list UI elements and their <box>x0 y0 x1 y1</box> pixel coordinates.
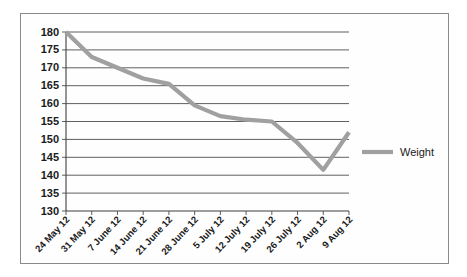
chart-legend: Weight <box>362 146 434 158</box>
weight-line-chart: 180 175 170 165 160 155 150 145 140 135 … <box>21 14 450 265</box>
y-tick-label: 170 <box>41 61 59 73</box>
y-tick-label: 135 <box>41 187 59 199</box>
x-tick-marks <box>66 211 349 215</box>
y-tick-label: 150 <box>41 133 59 145</box>
y-tick-label: 175 <box>41 43 59 55</box>
weight-series-line <box>66 32 349 170</box>
y-tick-label: 155 <box>41 115 59 127</box>
y-tick-label: 160 <box>41 97 59 109</box>
y-tick-label: 165 <box>41 79 59 91</box>
y-tick-label: 140 <box>41 169 59 181</box>
x-axis-labels: 24 May 1231 May 127 June 1214 June 1221 … <box>33 214 355 257</box>
y-tick-label: 130 <box>41 205 59 217</box>
chart-frame: 180 175 170 165 160 155 150 145 140 135 … <box>20 13 449 264</box>
y-tick-label: 180 <box>41 26 59 38</box>
y-axis-labels: 180 175 170 165 160 155 150 145 140 135 … <box>41 26 59 217</box>
y-tick-label: 145 <box>41 151 59 163</box>
legend-label-weight: Weight <box>400 146 434 158</box>
y-tick-marks <box>62 32 66 211</box>
chart-plot-area: 180 175 170 165 160 155 150 145 140 135 … <box>21 14 448 263</box>
